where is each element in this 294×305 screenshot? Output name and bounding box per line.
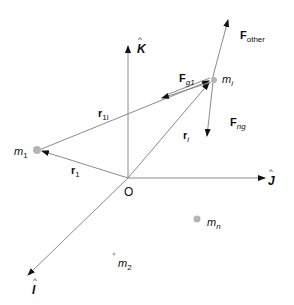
r1-vector xyxy=(42,151,128,178)
j-axis-label: J xyxy=(268,172,275,188)
mass-mn-label: mn xyxy=(207,217,221,231)
r1i-label: r1i xyxy=(98,108,109,122)
i-axis xyxy=(28,178,128,275)
mass-mi-dot xyxy=(211,77,217,83)
f-g1-label: Fg1 xyxy=(179,73,195,87)
f-other-label: Fother xyxy=(240,30,265,44)
i-axis-label: I xyxy=(32,281,35,297)
r1-label: r1 xyxy=(71,165,80,179)
mass-m1-dot xyxy=(33,146,41,154)
origin-label: O xyxy=(124,186,133,198)
mass-m2-label: m2 xyxy=(118,258,132,272)
mass-m2-dot xyxy=(113,253,116,256)
diagram-canvas xyxy=(0,0,294,305)
mass-m1-label: m1 xyxy=(14,146,28,160)
f-other-vector xyxy=(212,20,228,80)
mass-mi-label: mi xyxy=(222,74,233,88)
k-axis-label: K xyxy=(137,40,146,56)
mass-mn-dot xyxy=(194,216,201,223)
f-ng-vector xyxy=(207,82,213,136)
f-ng-label: Fng xyxy=(230,117,246,131)
ri-label: ri xyxy=(183,130,189,144)
